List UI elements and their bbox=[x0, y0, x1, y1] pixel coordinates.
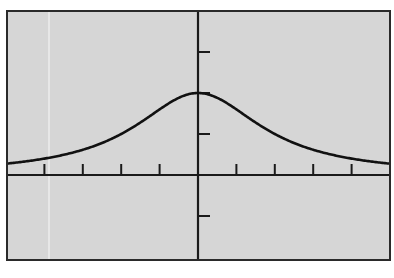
graph-window bbox=[0, 0, 394, 278]
